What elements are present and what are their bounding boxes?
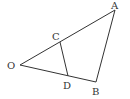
label-d: D — [63, 80, 71, 91]
geometry-diagram: A C O D B — [0, 0, 130, 99]
segment-oa — [20, 10, 115, 65]
label-o: O — [7, 60, 15, 71]
label-b: B — [92, 86, 99, 97]
segment-ob — [20, 65, 96, 82]
label-c: C — [52, 31, 60, 42]
label-a: A — [110, 0, 119, 11]
segment-ab — [96, 10, 115, 82]
segment-cd — [60, 42, 68, 76]
